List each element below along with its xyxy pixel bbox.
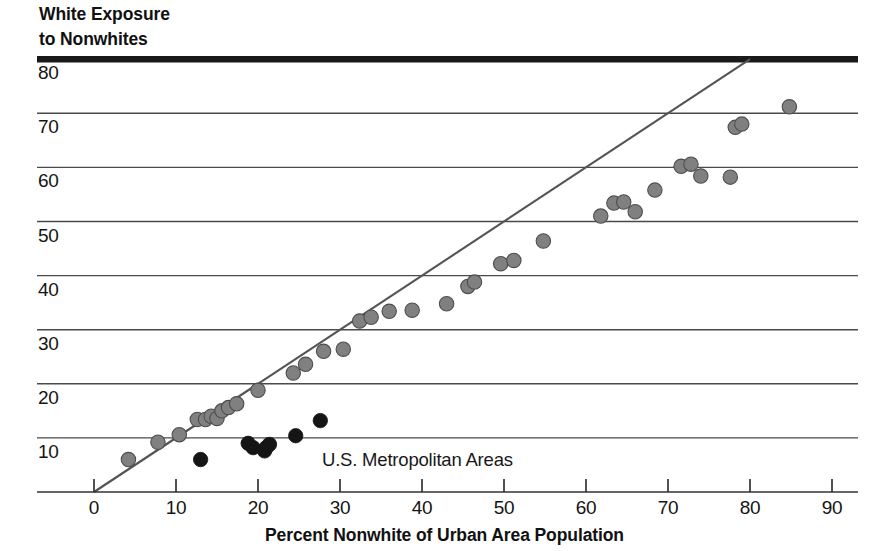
- data-point: [648, 183, 662, 197]
- data-point: [289, 429, 303, 443]
- data-point: [684, 157, 698, 171]
- x-tick-label-70: 70: [645, 498, 691, 517]
- data-point: [229, 397, 243, 411]
- x-tick-label-50: 50: [481, 498, 527, 517]
- y-tick-label-70: 70: [38, 117, 59, 136]
- x-tick-label-20: 20: [235, 498, 281, 517]
- y-tick-label-40: 40: [38, 280, 59, 299]
- data-point: [298, 357, 312, 371]
- scatter-series-gray: [121, 100, 796, 467]
- data-point: [364, 310, 378, 324]
- x-tick-label-40: 40: [399, 498, 445, 517]
- data-point: [723, 170, 737, 184]
- data-point: [262, 437, 276, 451]
- data-point: [439, 297, 453, 311]
- x-axis: [37, 479, 858, 492]
- data-point: [286, 366, 300, 380]
- data-point: [193, 452, 207, 466]
- gridlines: [37, 59, 858, 438]
- data-point: [382, 304, 396, 318]
- data-point: [121, 452, 135, 466]
- y-tick-label-30: 30: [38, 334, 59, 353]
- data-point: [151, 435, 165, 449]
- data-point: [594, 209, 608, 223]
- y-tick-label-80: 80: [38, 63, 59, 82]
- data-point: [536, 234, 550, 248]
- x-tick-label-0: 0: [71, 498, 117, 517]
- data-point: [313, 413, 327, 427]
- y-tick-label-10: 10: [38, 442, 59, 461]
- data-point: [782, 100, 796, 114]
- data-point: [405, 303, 419, 317]
- y-tick-label-60: 60: [38, 171, 59, 190]
- data-point: [507, 253, 521, 267]
- data-point: [467, 275, 481, 289]
- data-point: [694, 169, 708, 183]
- chart-figure: White Exposure to Nonwhites 102030405060…: [0, 0, 889, 551]
- data-point: [628, 205, 642, 219]
- y-tick-label-20: 20: [38, 388, 59, 407]
- x-tick-label-90: 90: [809, 498, 855, 517]
- data-point: [494, 256, 508, 270]
- data-point: [251, 383, 265, 397]
- data-point: [336, 342, 350, 356]
- x-tick-label-30: 30: [317, 498, 363, 517]
- x-axis-title: Percent Nonwhite of Urban Area Populatio…: [0, 525, 889, 546]
- x-tick-label-60: 60: [563, 498, 609, 517]
- y-tick-label-50: 50: [38, 226, 59, 245]
- data-point: [316, 344, 330, 358]
- x-tick-label-80: 80: [727, 498, 773, 517]
- data-point: [617, 195, 631, 209]
- x-tick-label-10: 10: [153, 498, 199, 517]
- data-point: [172, 427, 186, 441]
- plot-annotation: U.S. Metropolitan Areas: [322, 449, 513, 471]
- data-point: [735, 117, 749, 131]
